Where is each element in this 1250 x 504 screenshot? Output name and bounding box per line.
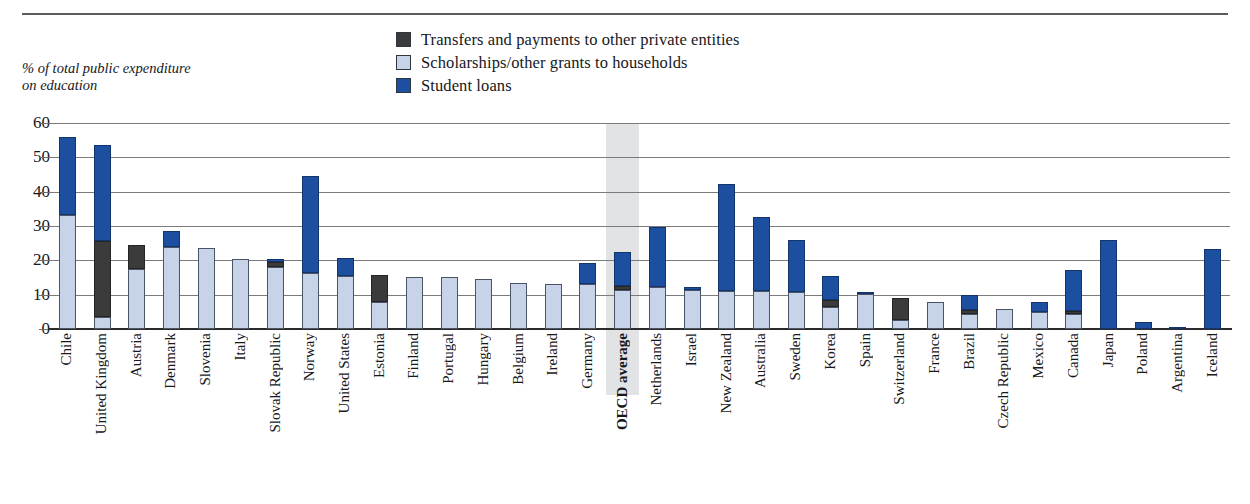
legend-item-scholar[interactable]: Scholarships/other grants to households	[396, 51, 740, 74]
x-label-netherlands: Netherlands	[649, 333, 664, 405]
bar-segment-scholar	[961, 314, 978, 329]
x-label-sweden: Sweden	[788, 333, 803, 381]
bar-france[interactable]	[927, 302, 944, 329]
bar-segment-scholar	[128, 269, 145, 329]
bar-japan[interactable]	[1100, 240, 1117, 329]
bar-segment-transfers	[614, 286, 631, 289]
x-label-australia: Australia	[753, 333, 768, 388]
bar-segment-loans	[684, 287, 701, 289]
bar-italy[interactable]	[232, 259, 249, 329]
bar-netherlands[interactable]	[649, 227, 666, 329]
bar-oecd-average[interactable]	[614, 252, 631, 329]
bar-segment-scholar	[822, 307, 839, 329]
x-label-korea: Korea	[823, 333, 838, 370]
bar-segment-scholar	[337, 276, 354, 329]
legend-item-loans[interactable]: Student loans	[396, 74, 740, 97]
bar-spain[interactable]	[857, 292, 874, 329]
plot-area	[50, 123, 1230, 329]
bar-brazil[interactable]	[961, 295, 978, 329]
x-label-slovenia: Slovenia	[198, 333, 213, 386]
bar-mexico[interactable]	[1031, 302, 1048, 329]
bar-ireland[interactable]	[545, 284, 562, 329]
bar-segment-scholar	[927, 302, 944, 329]
bar-poland[interactable]	[1135, 322, 1152, 329]
bar-slovak-republic[interactable]	[267, 259, 284, 329]
x-label-canada: Canada	[1066, 333, 1081, 378]
bar-united-states[interactable]	[337, 258, 354, 329]
bar-segment-loans	[822, 276, 839, 300]
bar-segment-loans	[649, 227, 666, 287]
bar-segment-scholar	[475, 279, 492, 329]
bar-segment-transfers	[267, 262, 284, 267]
bar-austria[interactable]	[128, 245, 145, 329]
bar-estonia[interactable]	[371, 275, 388, 329]
bar-slovenia[interactable]	[198, 248, 215, 329]
bar-segment-scholar	[892, 320, 909, 329]
x-label-spain: Spain	[858, 333, 873, 367]
y-tick-mark-30	[39, 226, 50, 227]
bar-new-zealand[interactable]	[718, 184, 735, 329]
bar-argentina[interactable]	[1169, 327, 1186, 329]
x-label-argentina: Argentina	[1170, 333, 1185, 393]
bar-sweden[interactable]	[788, 240, 805, 329]
x-label-united-states: United States	[337, 333, 352, 413]
x-label-united-kingdom: United Kingdom	[94, 333, 109, 434]
bar-korea[interactable]	[822, 276, 839, 329]
bar-segment-loans	[337, 258, 354, 276]
x-label-iceland: Iceland	[1205, 333, 1220, 377]
x-label-new-zealand: New Zealand	[719, 333, 734, 413]
bar-segment-transfers	[94, 241, 111, 317]
bar-germany[interactable]	[579, 263, 596, 329]
bar-denmark[interactable]	[163, 231, 180, 329]
bar-czech-republic[interactable]	[996, 309, 1013, 329]
x-label-portugal: Portugal	[441, 333, 456, 384]
bar-united-kingdom[interactable]	[94, 145, 111, 329]
bar-segment-loans	[302, 176, 319, 273]
bar-segment-scholar	[94, 317, 111, 329]
gridline-10	[50, 295, 1230, 296]
bar-segment-scholar	[614, 290, 631, 329]
bar-israel[interactable]	[684, 287, 701, 329]
x-label-oecd-average: OECD average	[615, 333, 630, 430]
bar-segment-loans	[961, 295, 978, 310]
x-label-brazil: Brazil	[962, 333, 977, 370]
gridline-60	[50, 123, 1230, 124]
legend-swatch-scholar-icon	[396, 55, 411, 70]
gridline-40	[50, 192, 1230, 193]
y-axis: 0102030405060	[0, 123, 50, 329]
legend-item-transfers[interactable]: Transfers and payments to other private …	[396, 28, 740, 51]
x-label-chile: Chile	[59, 333, 74, 366]
bar-finland[interactable]	[406, 277, 423, 329]
y-tick-mark-10	[39, 295, 50, 296]
bar-segment-transfers	[128, 245, 145, 269]
bar-belgium[interactable]	[510, 283, 527, 329]
x-label-israel: Israel	[684, 333, 699, 366]
clipped-caption-text	[230, 0, 1170, 8]
bar-segment-loans	[1204, 249, 1221, 329]
bar-chile[interactable]	[59, 137, 76, 329]
bar-segment-loans	[857, 292, 874, 294]
legend-swatch-loans-icon	[396, 78, 411, 93]
bar-segment-loans	[1100, 240, 1117, 329]
bar-hungary[interactable]	[475, 279, 492, 329]
x-label-estonia: Estonia	[372, 333, 387, 378]
bar-switzerland[interactable]	[892, 298, 909, 329]
bar-portugal[interactable]	[441, 277, 458, 329]
y-axis-title-line-2: on education	[22, 77, 252, 94]
bar-segment-scholar	[510, 283, 527, 329]
bar-australia[interactable]	[753, 217, 770, 329]
y-tick-mark-40	[39, 192, 50, 193]
x-label-austria: Austria	[129, 333, 144, 377]
legend-label-transfers: Transfers and payments to other private …	[421, 30, 740, 50]
bar-segment-loans	[94, 145, 111, 241]
bar-canada[interactable]	[1065, 270, 1082, 329]
bar-segment-loans	[579, 263, 596, 285]
gridline-30	[50, 226, 1230, 227]
bar-iceland[interactable]	[1204, 249, 1221, 329]
bar-segment-loans	[614, 252, 631, 286]
bar-segment-scholar	[753, 291, 770, 329]
x-label-italy: Italy	[233, 333, 248, 361]
bar-norway[interactable]	[302, 176, 319, 329]
bar-segment-transfers	[1065, 311, 1082, 314]
x-label-finland: Finland	[406, 333, 421, 379]
